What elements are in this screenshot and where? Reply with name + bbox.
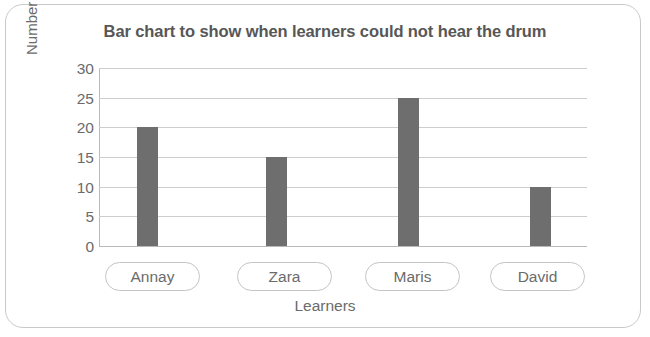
- gridline-0-baseline: [99, 246, 587, 247]
- gridline-10: [99, 187, 587, 188]
- category-label-annay: Annay: [105, 262, 200, 291]
- bar-chart-figure: Bar chart to show when learners could no…: [0, 0, 650, 337]
- gridline-5: [99, 216, 587, 217]
- gridline-30: [99, 68, 587, 69]
- bar-zara: [266, 157, 287, 246]
- category-label-maris: Maris: [365, 262, 460, 291]
- x-axis-title: Learners: [0, 297, 650, 315]
- y-tick-label: 0: [54, 239, 94, 255]
- gridline-15: [99, 157, 587, 158]
- bar-maris: [398, 98, 419, 246]
- gridline-25: [99, 98, 587, 99]
- y-tick-label: 20: [54, 120, 94, 136]
- plot-area: [99, 68, 587, 246]
- y-tick-label: 10: [54, 180, 94, 196]
- y-tick-label: 25: [54, 91, 94, 107]
- category-label-zara: Zara: [237, 262, 332, 291]
- category-label-david: David: [490, 262, 585, 291]
- gridline-20: [99, 127, 587, 128]
- y-axis-title: Number of steps: [21, 0, 43, 90]
- y-tick-label: 30: [54, 61, 94, 77]
- bar-david: [530, 187, 551, 246]
- bar-annay: [137, 127, 158, 246]
- y-tick-label: 5: [54, 209, 94, 225]
- y-axis-tick-labels: 30 25 20 15 10 5 0: [50, 68, 94, 247]
- chart-title: Bar chart to show when learners could no…: [0, 22, 650, 41]
- y-tick-label: 15: [54, 150, 94, 166]
